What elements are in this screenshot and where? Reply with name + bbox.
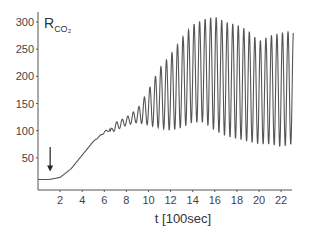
plot-area [38,17,293,179]
x-tick-label: 8 [123,194,129,206]
y-ticks: 50100150200250300 [16,16,38,164]
x-ticks: 246810121416182022 [57,190,287,206]
y-axis-label: RCO₂ [44,15,72,34]
x-tick-label: 14 [187,194,199,206]
x-tick-label: 2 [57,194,63,206]
x-tick-label: 10 [142,194,154,206]
y-tick-label: 150 [16,98,34,110]
x-tick-label: 20 [253,194,265,206]
x-tick-label: 6 [101,194,107,206]
y-tick-label: 100 [16,125,34,137]
x-axis-label: t [100sec] [155,211,211,226]
arrow-annotation [47,147,53,171]
rco2-line [38,17,293,179]
x-tick-label: 4 [79,194,85,206]
x-tick-label: 16 [209,194,221,206]
y-tick-label: 50 [22,152,34,164]
x-tick-label: 12 [164,194,176,206]
y-tick-label: 300 [16,16,34,28]
y-tick-label: 200 [16,70,34,82]
chart: 50100150200250300 246810121416182022 RCO… [0,0,309,238]
y-tick-label: 250 [16,43,34,55]
x-tick-label: 18 [231,194,243,206]
x-tick-label: 22 [275,194,287,206]
